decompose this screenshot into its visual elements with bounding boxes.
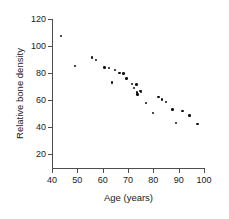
data-point	[122, 72, 124, 74]
x-tick-mark	[153, 169, 154, 173]
y-tick-label: 60	[24, 96, 46, 105]
x-tick-mark	[52, 169, 53, 173]
data-point	[165, 101, 167, 103]
x-tick-mark	[103, 169, 104, 173]
data-point	[103, 66, 105, 68]
data-point	[152, 112, 154, 114]
data-point	[60, 35, 62, 37]
y-axis-title: Relative bone density	[14, 19, 25, 169]
x-tick-label: 100	[193, 176, 215, 185]
y-tick-label: 100	[24, 42, 46, 51]
x-tick-label: 40	[41, 176, 63, 185]
data-point	[175, 122, 177, 124]
data-point	[171, 108, 173, 110]
x-tick-label: 70	[117, 176, 139, 185]
x-tick-mark	[204, 169, 205, 173]
x-axis-title: Age (years)	[52, 192, 205, 203]
x-tick-label: 60	[92, 176, 114, 185]
data-point	[135, 83, 137, 85]
x-tick-label: 50	[66, 176, 88, 185]
x-tick-mark	[128, 169, 129, 173]
plot-area	[52, 19, 204, 168]
x-tick-label: 90	[168, 176, 190, 185]
data-point	[125, 77, 127, 79]
data-point	[145, 102, 147, 104]
data-point	[95, 59, 97, 61]
y-tick-label: 40	[24, 123, 46, 132]
data-point	[74, 65, 76, 67]
scatter-plot-figure: 20406080100120 405060708090100 Age (year…	[0, 0, 229, 219]
y-tick-label: 120	[24, 15, 46, 24]
data-point	[108, 67, 110, 69]
x-tick-mark	[77, 169, 78, 173]
data-point	[136, 93, 138, 95]
data-point	[133, 87, 135, 89]
x-tick-mark	[179, 169, 180, 173]
data-point	[118, 72, 120, 74]
data-point	[131, 83, 133, 85]
data-point	[157, 96, 159, 98]
data-point	[91, 56, 93, 58]
data-point	[181, 110, 183, 112]
y-tick-label: 80	[24, 69, 46, 78]
y-tick-label: 20	[24, 150, 46, 159]
data-point	[196, 123, 198, 125]
data-point	[161, 98, 163, 100]
data-point	[188, 114, 190, 116]
x-tick-label: 80	[142, 176, 164, 185]
data-point	[140, 91, 142, 93]
data-point	[114, 69, 116, 71]
data-point	[111, 81, 113, 83]
